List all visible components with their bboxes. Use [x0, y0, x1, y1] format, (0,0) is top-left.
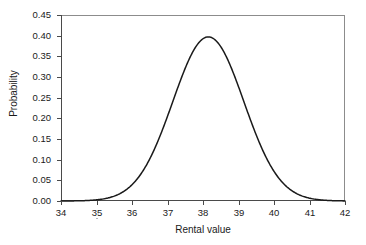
y-axis-tick-label: 0.30: [23, 72, 51, 82]
x-axis-tick-label: 41: [300, 208, 320, 218]
x-axis-tick: [345, 201, 346, 205]
y-axis-tick: [57, 118, 61, 119]
y-axis-tick: [57, 160, 61, 161]
x-axis-tick: [61, 201, 62, 205]
x-axis-tick-label: 35: [87, 208, 107, 218]
x-axis-tick: [168, 201, 169, 205]
y-axis-tick: [57, 77, 61, 78]
chart-container: 0.000.050.100.150.200.250.300.350.400.45…: [0, 0, 366, 245]
x-axis-tick: [97, 201, 98, 205]
y-axis-tick-label: 0.20: [23, 113, 51, 123]
x-axis-title: Rental value: [61, 224, 345, 235]
x-axis-tick-label: 39: [229, 208, 249, 218]
y-axis-tick-label: 0.00: [23, 196, 51, 206]
y-axis-tick-label: 0.10: [23, 155, 51, 165]
x-axis-tick-label: 34: [51, 208, 71, 218]
y-axis-tick-label: 0.45: [23, 10, 51, 20]
x-axis-tick: [132, 201, 133, 205]
y-axis-tick: [57, 15, 61, 16]
probability-density-curve: [61, 15, 345, 201]
y-axis-tick: [57, 36, 61, 37]
x-axis-tick: [274, 201, 275, 205]
x-axis-tick-label: 37: [158, 208, 178, 218]
y-axis-tick: [57, 56, 61, 57]
y-axis-title: Probability: [8, 44, 19, 144]
y-axis-tick-label: 0.40: [23, 31, 51, 41]
x-axis-tick: [239, 201, 240, 205]
x-axis-tick-label: 36: [122, 208, 142, 218]
y-axis-tick-label: 0.15: [23, 134, 51, 144]
y-axis-tick-label: 0.25: [23, 93, 51, 103]
y-axis-tick: [57, 98, 61, 99]
y-axis-tick-label: 0.05: [23, 175, 51, 185]
x-axis-tick-label: 42: [335, 208, 355, 218]
y-axis-tick-label: 0.35: [23, 51, 51, 61]
x-axis-tick-label: 38: [193, 208, 213, 218]
x-axis-tick: [203, 201, 204, 205]
x-axis-tick: [310, 201, 311, 205]
scan-artifact: [96, 218, 98, 219]
y-axis-tick: [57, 139, 61, 140]
x-axis-tick-label: 40: [264, 208, 284, 218]
y-axis-tick: [57, 180, 61, 181]
